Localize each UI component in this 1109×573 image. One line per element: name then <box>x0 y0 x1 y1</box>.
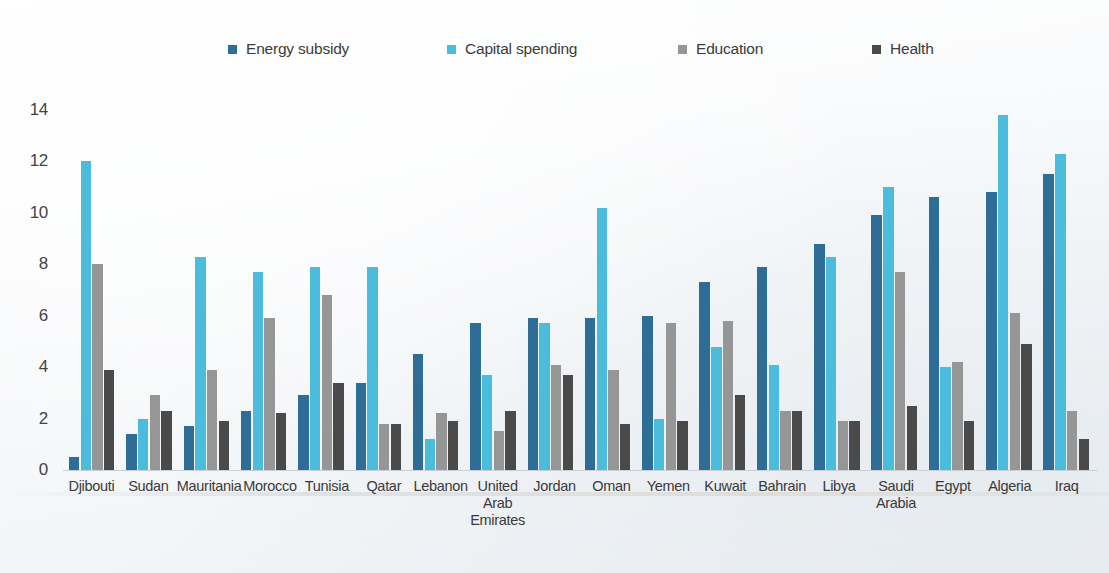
legend-item-label: Health <box>890 40 934 58</box>
bar-capital-spending[interactable] <box>195 257 206 470</box>
bar-health[interactable] <box>907 406 918 470</box>
bar-energy-subsidy[interactable] <box>298 395 309 470</box>
bar-capital-spending[interactable] <box>998 115 1009 470</box>
bar-education[interactable] <box>494 431 505 470</box>
bar-health[interactable] <box>1021 344 1032 470</box>
bar-capital-spending[interactable] <box>1055 154 1066 470</box>
bar-education[interactable] <box>608 370 619 470</box>
bar-education[interactable] <box>150 395 161 470</box>
y-axis-tick-label: 12 <box>30 151 48 171</box>
legend-swatch-icon <box>872 45 881 54</box>
bar-energy-subsidy[interactable] <box>528 318 539 470</box>
bar-education[interactable] <box>436 413 447 470</box>
bar-energy-subsidy[interactable] <box>814 244 825 470</box>
bar-energy-subsidy[interactable] <box>986 192 997 470</box>
bar-capital-spending[interactable] <box>539 323 550 470</box>
bar-energy-subsidy[interactable] <box>184 426 195 470</box>
bar-group <box>579 110 636 470</box>
bar-energy-subsidy[interactable] <box>413 354 424 470</box>
x-axis-tick-label: Lebanon <box>412 478 469 556</box>
bar-group <box>923 110 980 470</box>
bar-education[interactable] <box>92 264 103 470</box>
bar-education[interactable] <box>264 318 275 470</box>
bar-health[interactable] <box>448 421 459 470</box>
bar-capital-spending[interactable] <box>940 367 951 470</box>
legend-swatch-icon <box>447 45 456 54</box>
bar-group <box>751 110 808 470</box>
bar-education[interactable] <box>1067 411 1078 470</box>
bar-health[interactable] <box>964 421 975 470</box>
bar-education[interactable] <box>551 365 562 470</box>
bar-capital-spending[interactable] <box>482 375 493 470</box>
bar-capital-spending[interactable] <box>425 439 436 470</box>
bar-energy-subsidy[interactable] <box>470 323 481 470</box>
bar-group <box>407 110 464 470</box>
bar-health[interactable] <box>391 424 402 470</box>
bar-energy-subsidy[interactable] <box>585 318 596 470</box>
bar-capital-spending[interactable] <box>81 161 92 470</box>
bar-education[interactable] <box>838 421 849 470</box>
legend-item-capital-spending[interactable]: Capital spending <box>447 40 577 58</box>
bar-education[interactable] <box>207 370 218 470</box>
bar-health[interactable] <box>849 421 860 470</box>
bar-health[interactable] <box>735 395 746 470</box>
bar-health[interactable] <box>104 370 115 470</box>
bar-education[interactable] <box>780 411 791 470</box>
bar-energy-subsidy[interactable] <box>929 197 940 470</box>
bar-health[interactable] <box>1079 439 1090 470</box>
bar-energy-subsidy[interactable] <box>757 267 768 470</box>
bar-energy-subsidy[interactable] <box>871 215 882 470</box>
legend-item-health[interactable]: Health <box>872 40 934 58</box>
bar-health[interactable] <box>333 383 344 470</box>
bar-capital-spending[interactable] <box>367 267 378 470</box>
x-axis-tick-label: Qatar <box>355 478 412 556</box>
bar-energy-subsidy[interactable] <box>241 411 252 470</box>
bar-energy-subsidy[interactable] <box>699 282 710 470</box>
bar-health[interactable] <box>620 424 631 470</box>
x-axis-tick-label: Libya <box>811 478 868 556</box>
bar-health[interactable] <box>563 375 574 470</box>
bar-energy-subsidy[interactable] <box>69 457 80 470</box>
bar-capital-spending[interactable] <box>769 365 780 470</box>
bar-health[interactable] <box>161 411 172 470</box>
bar-capital-spending[interactable] <box>711 347 722 470</box>
bar-health[interactable] <box>505 411 516 470</box>
bar-group <box>292 110 349 470</box>
legend-item-label: Capital spending <box>465 40 577 58</box>
bar-energy-subsidy[interactable] <box>126 434 137 470</box>
bar-energy-subsidy[interactable] <box>356 383 367 470</box>
bar-capital-spending[interactable] <box>597 208 608 470</box>
legend-item-label: Education <box>696 40 763 58</box>
bar-capital-spending[interactable] <box>883 187 894 470</box>
x-axis-tick-label: Algeria <box>981 478 1038 556</box>
bar-capital-spending[interactable] <box>253 272 264 470</box>
x-axis-tick-label: Oman <box>583 478 640 556</box>
bar-health[interactable] <box>677 421 688 470</box>
bar-capital-spending[interactable] <box>138 419 149 470</box>
bar-energy-subsidy[interactable] <box>642 316 653 470</box>
legend-item-education[interactable]: Education <box>678 40 763 58</box>
bar-energy-subsidy[interactable] <box>1043 174 1054 470</box>
bar-education[interactable] <box>1010 313 1021 470</box>
x-axis-tick-label: Egypt <box>924 478 981 556</box>
bar-education[interactable] <box>322 295 333 470</box>
bar-education[interactable] <box>666 323 677 470</box>
x-axis-tick-label: Morocco <box>242 478 299 556</box>
bar-education[interactable] <box>895 272 906 470</box>
bar-capital-spending[interactable] <box>310 267 321 470</box>
bar-health[interactable] <box>219 421 230 470</box>
x-axis-tick-label: Sudan <box>120 478 177 556</box>
legend-item-energy-subsidy[interactable]: Energy subsidy <box>228 40 349 58</box>
bar-group <box>1038 110 1095 470</box>
y-axis: 02468101214 <box>0 110 58 470</box>
bar-education[interactable] <box>952 362 963 470</box>
bar-group <box>63 110 120 470</box>
bar-capital-spending[interactable] <box>826 257 837 470</box>
bar-health[interactable] <box>276 413 287 470</box>
bar-education[interactable] <box>379 424 390 470</box>
bar-capital-spending[interactable] <box>654 419 665 470</box>
bar-education[interactable] <box>723 321 734 470</box>
bar-group <box>866 110 923 470</box>
bar-health[interactable] <box>792 411 803 470</box>
bar-group <box>808 110 865 470</box>
